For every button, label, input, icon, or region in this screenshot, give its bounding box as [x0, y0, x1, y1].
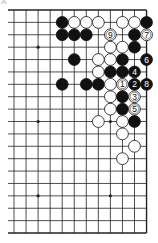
star-point: [109, 194, 112, 197]
white-stone: [80, 16, 92, 28]
white-stone: [105, 78, 117, 90]
white-stone: [105, 91, 117, 103]
black-stone: [117, 91, 129, 103]
black-stone: [68, 54, 80, 66]
white-stone: [92, 116, 104, 128]
white-stone: [92, 54, 104, 66]
white-stone: [105, 54, 117, 66]
black-stone: [129, 41, 141, 53]
white-stone: [105, 103, 117, 115]
black-stone: 6: [141, 54, 153, 66]
white-stone: [105, 41, 117, 53]
black-stone: [129, 116, 141, 128]
black-stone: [56, 29, 68, 41]
black-stone: [80, 78, 92, 90]
white-stone: [129, 16, 141, 28]
move-number: 3: [132, 92, 137, 102]
move-number: 1: [120, 79, 125, 89]
white-stone: [117, 128, 129, 140]
star-point: [37, 120, 40, 123]
move-number: 7: [144, 30, 149, 40]
black-stone: [117, 54, 129, 66]
white-stone: [117, 41, 129, 53]
black-stone: 4: [129, 66, 141, 78]
move-number: 2: [132, 79, 137, 89]
white-stone: [92, 16, 104, 28]
black-stone: [141, 16, 153, 28]
white-stone: [117, 16, 129, 28]
move-number: 6: [144, 55, 149, 65]
white-stone: [92, 66, 104, 78]
white-stone: 9: [105, 29, 117, 41]
black-stone: [129, 29, 141, 41]
black-stone: [68, 29, 80, 41]
white-stone: [68, 16, 80, 28]
move-number: 5: [132, 104, 137, 114]
white-stone: 1: [117, 78, 129, 90]
white-stone: 3: [129, 91, 141, 103]
white-stone: 5: [129, 103, 141, 115]
black-stone: 8: [141, 78, 153, 90]
star-point: [37, 194, 40, 197]
black-stone: [117, 103, 129, 115]
white-stone: [117, 116, 129, 128]
black-stone: [92, 78, 104, 90]
go-board: 976412835: [0, 0, 158, 243]
black-stone: [80, 29, 92, 41]
white-stone: 7: [141, 29, 153, 41]
move-number: 9: [108, 30, 113, 40]
black-stone: [56, 16, 68, 28]
black-stone: [56, 78, 68, 90]
black-stone: [117, 66, 129, 78]
white-stone: [117, 153, 129, 165]
white-stone: [129, 140, 141, 152]
black-stone: 2: [129, 78, 141, 90]
star-point: [109, 120, 112, 123]
move-number: 8: [144, 79, 149, 89]
star-point: [37, 46, 40, 49]
stones-layer: 976412835: [56, 16, 152, 164]
black-stone: [105, 66, 117, 78]
move-number: 4: [132, 67, 137, 77]
